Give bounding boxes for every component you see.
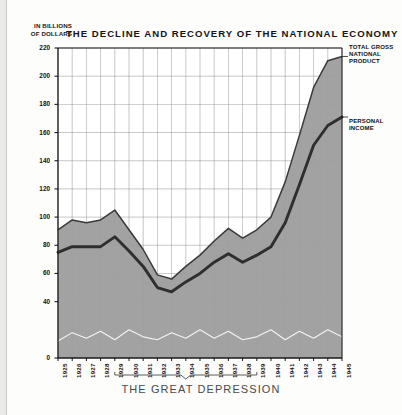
y-tick-label: 80	[24, 241, 50, 248]
x-tick-label: 1942	[302, 363, 309, 378]
x-tick-label: 1932	[160, 363, 167, 378]
y-tick-label: 160	[24, 129, 50, 136]
x-tick-label: 1937	[231, 363, 238, 378]
y-tick-label: 60	[24, 269, 50, 276]
x-tick-label: 1944	[330, 363, 337, 378]
x-tick-label: 1941	[288, 363, 295, 378]
depression-caption: THE GREAT DEPRESSION	[96, 383, 306, 395]
y-tick-label: 0	[24, 354, 50, 361]
x-tick-label: 1936	[217, 363, 224, 378]
y-tick-label: 140	[24, 157, 50, 164]
y-tick-label: 100	[24, 213, 50, 220]
x-tick-label: 1926	[75, 363, 82, 378]
x-tick-label: 1928	[103, 363, 110, 378]
chart-page: IN BILLIONS OF DOLLARS THE DECLINE AND R…	[0, 0, 402, 415]
y-tick-label: 180	[24, 100, 50, 107]
y-tick-label: 120	[24, 185, 50, 192]
x-tick-label: 1940	[274, 363, 281, 378]
x-tick-label: 1945	[345, 363, 352, 378]
x-tick-label: 1929	[117, 363, 124, 378]
y-tick-label: 200	[24, 72, 50, 79]
y-tick-label: 220	[24, 44, 50, 51]
y-tick-label: 40	[24, 298, 50, 305]
x-tick-label: 1934	[188, 363, 195, 378]
x-tick-label: 1939	[259, 363, 266, 378]
plot-area	[0, 0, 402, 415]
x-tick-label: 1943	[316, 363, 323, 378]
economy-area-chart	[0, 0, 402, 415]
x-tick-label: 1935	[203, 363, 210, 378]
x-tick-label: 1931	[146, 363, 153, 378]
x-tick-label: 1927	[89, 363, 96, 378]
x-tick-label: 1930	[132, 363, 139, 378]
x-tick-label: 1933	[174, 363, 181, 378]
x-tick-label: 1938	[245, 363, 252, 378]
x-tick-label: 1925	[61, 363, 68, 378]
